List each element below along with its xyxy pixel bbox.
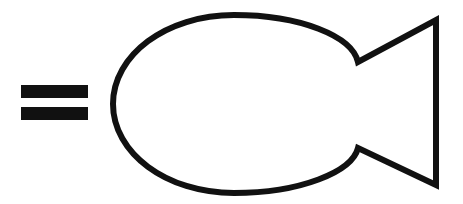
equals-upper-bar [21, 85, 88, 98]
figure-svg [0, 0, 463, 204]
drawing-canvas: Equals sign followed by fish outline [0, 0, 463, 204]
equals-lower-bar [21, 107, 88, 120]
